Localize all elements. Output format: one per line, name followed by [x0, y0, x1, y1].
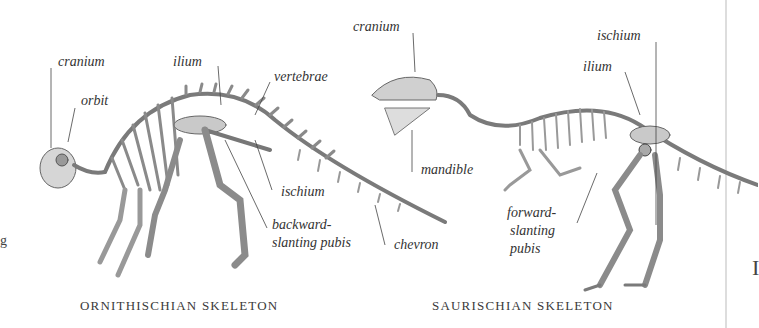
saurischian-skeleton — [372, 77, 758, 290]
label-sau-ilium: ilium — [583, 60, 612, 74]
label-orn-pubis-1: backward- — [272, 218, 331, 232]
label-sau-cranium: cranium — [353, 20, 400, 34]
label-orn-ischium: ischium — [281, 185, 325, 199]
caption-ornithischian: ORNITHISCHIAN SKELETON — [80, 298, 278, 314]
label-sau-pubis-2: slanting — [510, 224, 555, 238]
ornithischian-skeleton — [40, 84, 445, 275]
label-orn-cranium: cranium — [58, 55, 105, 69]
label-orn-chevron: chevron — [394, 238, 439, 252]
label-orn-pubis-2: slanting pubis — [272, 236, 351, 250]
label-sau-pubis-1: forward- — [507, 206, 556, 220]
label-sau-mandible: mandible — [421, 163, 473, 177]
left-edge-glyph: g — [0, 233, 7, 249]
label-sau-ischium: ischium — [597, 29, 641, 43]
label-orn-vertebrae: vertebrae — [274, 70, 328, 84]
label-orn-orbit: orbit — [81, 94, 108, 108]
label-sau-pubis-3: pubis — [510, 242, 540, 256]
caption-saurischian: SAURISCHIAN SKELETON — [432, 298, 614, 314]
right-edge-glyph: I — [752, 255, 759, 281]
label-orn-ilium: ilium — [173, 55, 202, 69]
